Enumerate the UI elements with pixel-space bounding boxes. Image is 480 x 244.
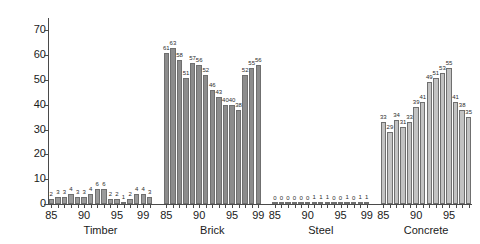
bar[interactable] [433,78,438,204]
x-tick [321,204,322,208]
x-tick [137,204,138,208]
bar[interactable] [147,197,152,204]
bar-slot[interactable]: 6 [94,18,101,204]
x-tick [390,204,391,208]
bar[interactable] [394,120,399,204]
y-tick-label: 70 [34,23,46,35]
x-tick [84,204,85,208]
bar[interactable] [55,197,60,204]
bar-slot[interactable]: 35 [465,18,472,204]
bar-slot[interactable]: 46 [209,18,216,204]
bar-group-concrete: 3329343133394149515355413835 [380,18,472,204]
bar-value-label: 0 [339,195,342,202]
bar-slot[interactable]: 1 [120,18,127,204]
bar-slot[interactable]: 1 [344,18,351,204]
x-axis-label-90: 90 [193,209,205,221]
x-tick [166,204,167,208]
x-tick [288,204,289,208]
bar[interactable] [466,117,471,204]
bar-value-label: 1 [313,194,316,201]
bar-value-label: 3 [56,189,59,196]
bar-slot[interactable]: 4 [68,18,75,204]
bar[interactable] [62,197,67,204]
bar[interactable] [88,194,93,204]
bar-value-label: 4 [89,186,92,193]
bar[interactable] [440,73,445,204]
x-tick [281,204,282,208]
bar-slot[interactable]: 4 [140,18,147,204]
bar[interactable] [210,90,215,204]
x-tick [193,204,194,208]
bar[interactable] [236,110,241,204]
y-tick-label: 0 [40,197,46,209]
bar[interactable] [242,75,247,204]
bar[interactable] [387,132,392,204]
x-tick [58,204,59,208]
bar-slot[interactable]: 1 [363,18,370,204]
bar-value-label: 2 [109,191,112,198]
bar-group-brick: 616358515756524643404038525556 [163,18,262,204]
bar-chart: 010203040506070 233433466221244361635851… [0,0,480,244]
bar[interactable] [141,194,146,204]
bar-value-label: 3 [76,189,79,196]
bar[interactable] [413,107,418,204]
x-axis-label-99: 99 [361,209,373,221]
bar[interactable] [95,189,100,204]
bar-slot[interactable]: 38 [235,18,242,204]
bar[interactable] [446,68,451,204]
bar[interactable] [420,102,425,204]
bar[interactable] [177,60,182,204]
bar[interactable] [249,68,254,204]
bar[interactable] [183,78,188,204]
group-title-concrete: Concrete [404,224,449,236]
bar[interactable] [427,82,432,204]
y-tick-label: 50 [34,73,46,85]
bar[interactable] [229,105,234,204]
bar[interactable] [164,53,169,204]
bar-value-label: 1 [122,194,125,201]
group-title-timber: Timber [84,224,118,236]
bar-value-label: 2 [50,191,53,198]
bar[interactable] [190,63,195,204]
x-tick [383,204,384,208]
bar[interactable] [101,189,106,204]
bar-slot[interactable]: 1 [318,18,325,204]
bar[interactable] [223,105,228,204]
bar[interactable] [75,197,80,204]
bar-slot[interactable]: 56 [255,18,262,204]
bar[interactable] [407,122,412,204]
bar[interactable] [381,122,386,204]
bar[interactable] [256,65,261,204]
x-tick [258,204,259,208]
bar-slot[interactable]: 49 [426,18,433,204]
bar[interactable] [453,102,458,204]
x-tick [130,204,131,208]
bar[interactable] [170,48,175,204]
x-axis-label-99: 99 [252,209,264,221]
x-axis-labels: 859095998590959985909599859095 [48,209,472,223]
bar-slot[interactable]: 31 [400,18,407,204]
x-tick [423,204,424,208]
x-axis-label-85: 85 [269,209,281,221]
bars: 2334334662212443 [48,18,153,204]
bar-value-label: 1 [319,194,322,201]
bar[interactable] [81,197,86,204]
x-tick [442,204,443,208]
bar-slot[interactable]: 41 [452,18,459,204]
bar[interactable] [134,194,139,204]
bar-slot[interactable]: 0 [291,18,298,204]
bar[interactable] [459,110,464,204]
x-tick [410,204,411,208]
bar[interactable] [196,65,201,204]
bar-slot[interactable]: 51 [183,18,190,204]
x-tick [71,204,72,208]
bar[interactable] [68,194,73,204]
bar-value-label: 4 [69,186,72,193]
bar-value-label: 0 [352,195,355,202]
y-tick-label: 60 [34,48,46,60]
bar[interactable] [216,97,221,204]
bar-slot[interactable]: 3 [147,18,154,204]
bar[interactable] [203,75,208,204]
bar[interactable] [400,127,405,204]
x-axis-label-90: 90 [410,209,422,221]
